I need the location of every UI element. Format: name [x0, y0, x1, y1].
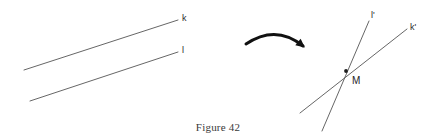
- intersection-point-label: M: [352, 76, 360, 86]
- geometry-canvas: [0, 0, 436, 140]
- line-k: [24, 20, 178, 70]
- line-l-prime: [322, 21, 369, 131]
- line-l: [30, 52, 178, 101]
- line-k-prime: [300, 29, 407, 113]
- line-l-label: l: [182, 46, 184, 55]
- intersection-point-dot: [344, 69, 348, 73]
- line-k-prime-label: k': [410, 23, 416, 32]
- transform-arrow-curve: [246, 34, 303, 46]
- figure-caption: Figure 42: [0, 121, 436, 133]
- line-k-label: k: [182, 14, 187, 23]
- line-l-prime-label: l': [371, 11, 375, 20]
- figure-42-container: k l l' k' M Figure 42: [0, 0, 436, 140]
